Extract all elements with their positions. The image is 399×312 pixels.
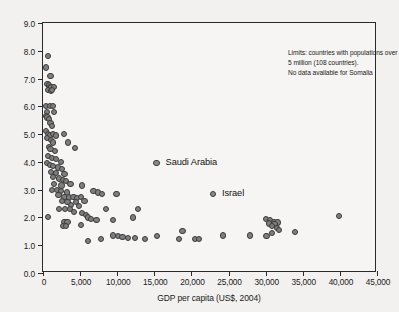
scatter-point — [113, 191, 119, 197]
x-axis-tick-label: 0 — [42, 277, 46, 287]
x-axis-title: GDP per capita (US$, 2004) — [42, 293, 376, 303]
x-axis-tick-label: 35,000 — [292, 277, 316, 287]
chart-figure: Total fertility rate (children per woman… — [0, 0, 399, 312]
scatter-point — [179, 228, 185, 234]
plot-area: 0.01.02.03.04.05.06.07.08.09.005,00010,0… — [42, 22, 376, 272]
y-axis-tick: 8.0 — [38, 51, 43, 52]
y-axis-tick-label: 7.0 — [24, 75, 35, 85]
x-axis-tick-label: 30,000 — [254, 277, 278, 287]
x-axis-tick-label: 45,000 — [366, 277, 390, 287]
scatter-point — [78, 222, 84, 228]
scatter-point — [52, 148, 58, 154]
scatter-point — [130, 214, 136, 220]
scatter-point — [85, 238, 91, 244]
y-axis-tick-label: 8.0 — [24, 47, 35, 57]
scatter-point — [176, 236, 182, 242]
x-axis-tick: 25,000 — [229, 271, 230, 276]
scatter-point — [132, 235, 138, 241]
scatter-point — [49, 123, 55, 129]
x-axis-tick-label: 40,000 — [329, 277, 353, 287]
y-axis-tick-label: 3.0 — [24, 186, 35, 196]
scatter-point — [110, 217, 116, 223]
x-axis-tick-label: 15,000 — [143, 277, 167, 287]
x-axis-tick: 40,000 — [340, 271, 341, 276]
scatter-point — [43, 64, 49, 70]
y-axis-tick: 4.0 — [38, 162, 43, 163]
scatter-point — [45, 53, 51, 59]
scatter-point — [154, 233, 160, 239]
scatter-point — [67, 181, 73, 187]
point-label: Israel — [222, 188, 244, 198]
x-axis-tick-label: 10,000 — [106, 277, 130, 287]
scatter-point-labeled — [210, 191, 216, 197]
scatter-point — [263, 233, 269, 239]
x-axis-tick: 35,000 — [303, 271, 304, 276]
y-axis-tick: 5.0 — [38, 134, 43, 135]
x-axis-tick-label: 5,000 — [71, 277, 91, 287]
scatter-point — [76, 203, 82, 209]
annotation-line: Limits: countries with populations over — [288, 48, 397, 58]
y-axis-tick: 1.0 — [38, 245, 43, 246]
y-axis-tick: 7.0 — [38, 79, 43, 80]
scatter-point — [98, 236, 104, 242]
y-axis-tick: 6.0 — [38, 106, 43, 107]
scatter-point — [61, 131, 67, 137]
scatter-point — [336, 213, 342, 219]
scatter-point — [196, 236, 202, 242]
x-axis-tick: 5,000 — [80, 271, 81, 276]
scatter-point — [47, 73, 53, 79]
scatter-point — [51, 109, 57, 115]
scatter-point — [142, 236, 148, 242]
x-axis-tick-label: 20,000 — [180, 277, 204, 287]
scatter-point — [79, 182, 85, 188]
y-axis-tick-label: 9.0 — [24, 19, 35, 29]
y-axis-tick-label: 2.0 — [24, 213, 35, 223]
scatter-point — [65, 139, 71, 145]
x-axis-tick: 10,000 — [117, 271, 118, 276]
x-axis-tick-label: 25,000 — [217, 277, 241, 287]
x-axis-tick: 45,000 — [377, 271, 378, 276]
x-axis-tick: 15,000 — [154, 271, 155, 276]
scatter-point — [45, 214, 51, 220]
y-axis-tick-label: 0.0 — [24, 269, 35, 279]
scatter-point — [63, 223, 69, 229]
scatter-point — [247, 232, 253, 238]
x-axis-tick: 0 — [43, 271, 44, 276]
limits-annotation: Limits: countries with populations over5… — [288, 48, 397, 78]
y-axis-tick: 2.0 — [38, 217, 43, 218]
scatter-point — [276, 227, 282, 233]
y-axis-tick-label: 5.0 — [24, 130, 35, 140]
scatter-point — [220, 232, 226, 238]
annotation-line: No data available for Somalia — [288, 68, 397, 78]
scatter-point-labeled — [153, 160, 159, 166]
y-axis-tick: 3.0 — [38, 190, 43, 191]
scatter-point — [135, 206, 141, 212]
scatter-point — [72, 145, 78, 151]
scatter-point — [93, 217, 99, 223]
scatter-point — [292, 229, 298, 235]
x-axis-tick: 30,000 — [266, 271, 267, 276]
scatter-point — [50, 174, 56, 180]
scatter-point — [103, 206, 109, 212]
scatter-point — [81, 198, 87, 204]
scatter-point — [49, 87, 55, 93]
scatter-point — [99, 191, 105, 197]
y-axis-tick-label: 6.0 — [24, 102, 35, 112]
scatter-point — [71, 209, 77, 215]
scatter-point — [125, 235, 131, 241]
y-axis-tick: 9.0 — [38, 23, 43, 24]
annotation-line: 5 million (108 countries). — [288, 58, 397, 68]
x-axis-tick: 20,000 — [191, 271, 192, 276]
y-axis-tick-label: 1.0 — [24, 241, 35, 251]
point-label: Saudi Arabia — [166, 157, 218, 167]
y-axis-tick-label: 4.0 — [24, 158, 35, 168]
